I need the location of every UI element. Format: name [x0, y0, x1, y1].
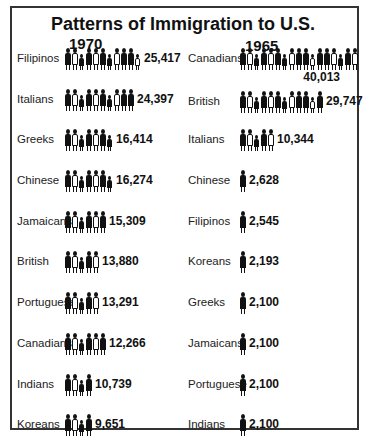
value-label: 10,739 — [95, 377, 132, 391]
person-icon — [296, 48, 302, 70]
value-label: 2,100 — [249, 417, 279, 431]
chart-title: Patterns of Immigration to U.S. — [0, 14, 366, 35]
person-icon — [72, 333, 78, 355]
person-icon — [72, 374, 78, 396]
person-icon — [247, 91, 253, 113]
person-icon — [114, 48, 120, 70]
person-icon — [338, 54, 344, 70]
person-icon — [254, 97, 260, 113]
pictograph-row: Koreans9,651 — [17, 410, 125, 438]
country-label: Italians — [17, 93, 65, 105]
country-label: Italians — [188, 133, 240, 145]
person-icon — [79, 217, 85, 233]
figure-group — [240, 168, 247, 192]
person-icon — [240, 333, 246, 355]
person-icon — [247, 48, 253, 70]
person-icon — [79, 380, 85, 396]
person-icon — [303, 91, 309, 113]
value-label: 15,309 — [109, 214, 146, 228]
person-icon — [345, 48, 351, 70]
person-icon — [317, 48, 323, 70]
person-icon — [310, 97, 316, 113]
country-label: Chinese — [188, 174, 240, 186]
value-label: 29,747 — [326, 94, 363, 108]
person-icon — [86, 374, 92, 396]
person-icon — [240, 91, 246, 113]
value-label: 2,193 — [249, 254, 279, 268]
pictograph-row: Indians2,100 — [188, 410, 279, 438]
person-icon — [310, 54, 316, 70]
person-icon — [79, 135, 85, 151]
pictograph-row: Italians10,344 — [188, 125, 314, 153]
country-label: Portuguese — [188, 378, 240, 390]
person-icon — [324, 48, 330, 70]
person-icon — [72, 414, 78, 436]
person-icon — [72, 48, 78, 70]
person-icon — [107, 176, 113, 192]
person-icon — [93, 48, 99, 70]
person-icon — [65, 374, 71, 396]
value-label: 16,274 — [116, 173, 153, 187]
person-icon — [65, 414, 71, 436]
pictograph-row: Filipinos25,417 — [17, 44, 181, 72]
person-icon — [317, 91, 323, 113]
person-icon — [289, 91, 295, 113]
person-icon — [86, 129, 92, 151]
person-icon — [107, 135, 113, 151]
country-label: Portuguese — [17, 296, 65, 308]
person-icon — [268, 48, 274, 70]
person-icon — [268, 129, 274, 151]
person-icon — [93, 211, 99, 233]
pictograph-row: Jamaicans15,309 — [17, 207, 146, 235]
figure-group — [65, 87, 135, 111]
country-label: Jamaicans — [17, 215, 65, 227]
value-label: 2,100 — [249, 377, 279, 391]
person-icon — [135, 54, 141, 70]
value-label: 9,651 — [95, 417, 125, 431]
person-icon — [282, 54, 288, 70]
pictograph-row: Italians24,397 — [17, 85, 174, 113]
person-icon — [86, 170, 92, 192]
country-label: Indians — [17, 378, 65, 390]
figure-group — [240, 290, 247, 314]
person-icon — [72, 292, 78, 314]
country-label: Filipinos — [188, 215, 240, 227]
figure-group — [240, 46, 359, 70]
pictograph-row: Greeks2,100 — [188, 288, 279, 316]
pictograph-row: Chinese2,628 — [188, 166, 279, 194]
country-label: Jamaicans — [188, 337, 240, 349]
pictograph-row: Portuguese2,100 — [188, 370, 279, 398]
value-label: 2,100 — [249, 336, 279, 350]
person-icon — [65, 251, 71, 273]
person-icon — [261, 91, 267, 113]
pictograph-row: British29,747 — [188, 87, 363, 115]
person-icon — [93, 292, 99, 314]
person-icon — [65, 211, 71, 233]
figure-group — [65, 46, 142, 70]
figure-group — [65, 412, 93, 436]
person-icon — [65, 333, 71, 355]
person-icon — [289, 48, 295, 70]
person-icon — [100, 89, 106, 111]
country-label: Greeks — [17, 133, 65, 145]
person-icon — [72, 170, 78, 192]
person-icon — [128, 48, 134, 70]
person-icon — [79, 298, 85, 314]
country-label: Indians — [188, 418, 240, 430]
pictograph-row: Canadians12,266 — [17, 329, 146, 357]
person-icon — [93, 251, 99, 273]
person-icon — [100, 129, 106, 151]
pictograph-row: Koreans2,193 — [188, 247, 279, 275]
figure-group — [65, 209, 107, 233]
country-label: British — [17, 255, 65, 267]
person-icon — [79, 257, 85, 273]
person-icon — [331, 48, 337, 70]
pictograph-row: Greeks16,414 — [17, 125, 153, 153]
person-icon — [86, 48, 92, 70]
person-icon — [240, 292, 246, 314]
person-icon — [254, 135, 260, 151]
value-label: 2,100 — [249, 295, 279, 309]
country-label: Canadians — [17, 337, 65, 349]
figure-group — [65, 372, 93, 396]
figure-group — [240, 249, 247, 273]
